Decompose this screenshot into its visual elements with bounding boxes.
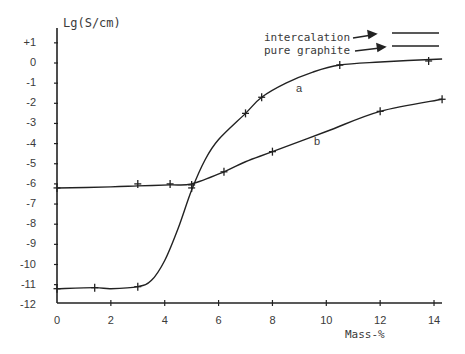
y-tick-label: -4 <box>0 138 36 149</box>
plus-marker-icon <box>54 184 61 192</box>
curve-label-b: b <box>314 136 320 147</box>
x-tick-label: 0 <box>54 315 60 326</box>
data-point-markers <box>54 57 446 293</box>
y-tick-label: 0 <box>0 57 36 68</box>
y-tick-label: -9 <box>0 238 36 249</box>
x-tick-label: 12 <box>374 315 386 326</box>
x-tick-label: 8 <box>269 315 275 326</box>
y-tick-label: -10 <box>0 259 36 270</box>
legend-label-intercalation: intercalation <box>264 32 350 43</box>
x-tick-label: 10 <box>320 315 332 326</box>
y-tick-label: -2 <box>0 97 36 108</box>
y-axis-label: Lg(S/cm) <box>63 17 121 29</box>
plus-marker-icon <box>220 168 227 176</box>
plus-marker-icon <box>91 284 98 292</box>
y-tick-label: -3 <box>0 117 36 128</box>
plus-marker-icon <box>425 57 432 65</box>
curve-label-a: a <box>296 83 302 94</box>
plus-marker-icon <box>134 283 141 291</box>
x-axis-label: Mass-% <box>345 329 385 340</box>
plus-marker-icon <box>336 61 343 69</box>
axes <box>57 28 442 303</box>
y-tick-label: -7 <box>0 198 36 209</box>
x-tick-label: 6 <box>216 315 222 326</box>
x-tick-label: 4 <box>162 315 168 326</box>
arrow-head-icon <box>377 44 385 51</box>
y-tick-label: -11 <box>0 279 36 290</box>
x-tick-label: 2 <box>108 315 114 326</box>
curve-b <box>57 99 442 188</box>
y-tick-label: -6 <box>0 178 36 189</box>
plus-marker-icon <box>269 148 276 156</box>
y-tick-label: -5 <box>0 158 36 169</box>
legend-arrow-pure-graphite <box>355 48 380 51</box>
curve-a <box>57 59 442 289</box>
plus-marker-icon <box>167 180 174 188</box>
y-tick-label: -12 <box>0 299 36 310</box>
conductivity-chart <box>0 0 465 354</box>
legend <box>353 31 439 51</box>
curves <box>57 59 442 289</box>
y-tick-label: +1 <box>0 37 36 48</box>
arrow-head-icon <box>368 31 376 38</box>
y-tick-label: -8 <box>0 218 36 229</box>
x-tick-label: 14 <box>428 315 440 326</box>
plus-marker-icon <box>54 285 61 293</box>
legend-label-pure-graphite: pure graphite <box>264 45 350 56</box>
plus-marker-icon <box>439 95 446 103</box>
y-tick-label: -1 <box>0 77 36 88</box>
plus-marker-icon <box>377 107 384 115</box>
